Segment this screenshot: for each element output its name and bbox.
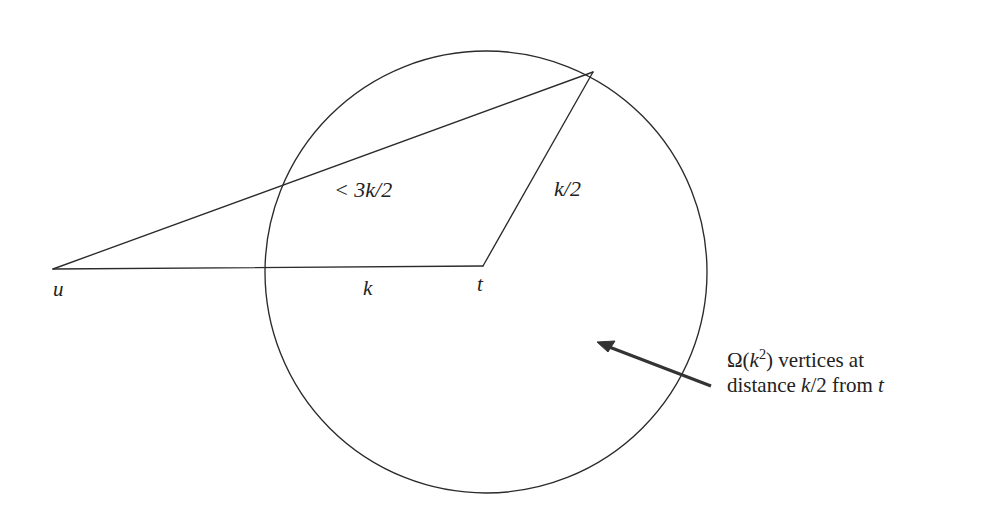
circle-radius-k-half [265, 51, 707, 493]
segment-u-to-t [53, 266, 483, 269]
annotation-line-1: Ω(k2) vertices at [727, 348, 884, 373]
edge-length-label-k: k [363, 276, 372, 301]
bound-label-3k-over-2: < 3k/2 [334, 177, 392, 203]
distance-prefix: distance [727, 373, 801, 397]
distance-target-vertex: t [878, 373, 884, 397]
diagram-canvas [0, 0, 993, 522]
omega-variable: k [750, 348, 759, 372]
k-half-text: k/2 [554, 176, 581, 201]
geometry-figure: u t k k/2 < 3k/2 Ω(k2) vertices at dista… [0, 0, 993, 522]
omega-suffix: ) vertices at [766, 348, 864, 372]
omega-exponent: 2 [759, 346, 766, 362]
distance-mid: /2 from [810, 373, 878, 397]
edge-length-label-k-half: k/2 [554, 176, 581, 202]
arrowhead-icon [597, 341, 615, 352]
segment-u-to-apex [53, 72, 593, 269]
omega-prefix: Ω( [727, 348, 750, 372]
bound-text: < 3k/2 [334, 177, 392, 202]
distance-variable: k [801, 373, 810, 397]
segment-t-to-apex [483, 72, 593, 266]
annotation-text-block: Ω(k2) vertices at distance k/2 from t [727, 348, 884, 398]
annotation-line-2: distance k/2 from t [727, 373, 884, 398]
vertex-label-t: t [477, 272, 483, 297]
vertex-label-u: u [53, 277, 64, 302]
